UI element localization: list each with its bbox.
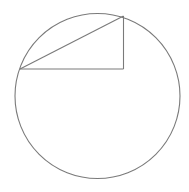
triangle-hypotenuse: [20, 16, 124, 69]
diagram-canvas: [0, 0, 189, 192]
circle: [15, 14, 180, 179]
circle-triangle-figure: [0, 0, 189, 192]
